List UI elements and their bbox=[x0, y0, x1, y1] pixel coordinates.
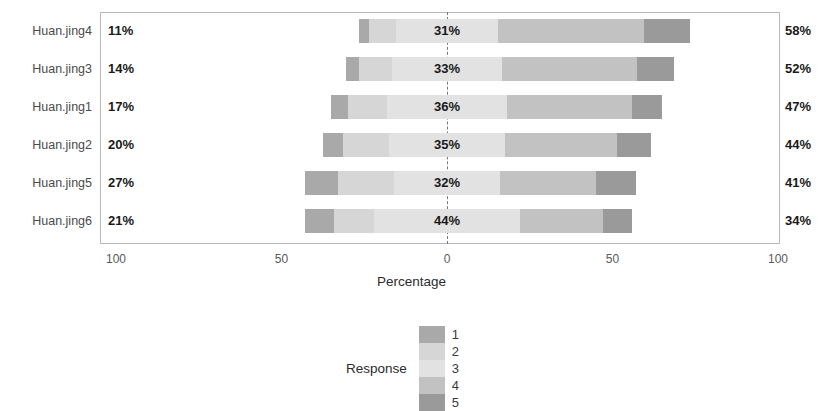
bar-segment-response-2 bbox=[369, 19, 395, 43]
bar-segment-response-4 bbox=[502, 57, 638, 81]
bar-segment-response-4 bbox=[505, 133, 618, 157]
table-row: Huan.jing117%47%36% bbox=[0, 88, 823, 126]
neutral-percentage-label: 35% bbox=[417, 133, 477, 157]
row-category-label: Huan.jing2 bbox=[0, 126, 92, 164]
legend-item-2[interactable]: 2 bbox=[419, 343, 473, 360]
bar-segment-response-1 bbox=[359, 19, 369, 43]
row-category-label: Huan.jing4 bbox=[0, 12, 92, 50]
table-row: Huan.jing527%41%32% bbox=[0, 164, 823, 202]
bar-segment-response-4 bbox=[507, 95, 633, 119]
row-category-label: Huan.jing6 bbox=[0, 202, 92, 240]
legend: Response 12345 bbox=[0, 326, 823, 411]
x-axis-title: Percentage bbox=[0, 274, 823, 289]
bar-segment-response-1 bbox=[305, 171, 338, 195]
table-row: Huan.jing314%52%33% bbox=[0, 50, 823, 88]
negative-total-label: 27% bbox=[108, 164, 134, 202]
legend-item-4[interactable]: 4 bbox=[419, 377, 473, 394]
positive-total-label: 58% bbox=[755, 12, 811, 50]
table-row: Huan.jing220%44%35% bbox=[0, 126, 823, 164]
legend-label: 3 bbox=[452, 361, 459, 376]
bar-segment-response-5 bbox=[644, 19, 690, 43]
bar-segment-response-1 bbox=[323, 133, 343, 157]
x-axis-tick: 50 bbox=[583, 252, 643, 266]
legend-label: 4 bbox=[452, 378, 459, 393]
bar-segment-response-1 bbox=[331, 95, 348, 119]
x-axis-tick: 100 bbox=[86, 252, 146, 266]
row-category-label: Huan.jing3 bbox=[0, 50, 92, 88]
legend-label: 5 bbox=[452, 395, 459, 410]
bar-segment-response-4 bbox=[498, 19, 644, 43]
bar-segment-response-2 bbox=[348, 95, 388, 119]
legend-swatch-icon bbox=[419, 360, 445, 377]
legend-swatch-icon bbox=[419, 377, 445, 394]
neutral-percentage-label: 32% bbox=[417, 171, 477, 195]
legend-item-1[interactable]: 1 bbox=[419, 326, 473, 343]
bar-segment-response-5 bbox=[596, 171, 636, 195]
bar-segment-response-5 bbox=[617, 133, 650, 157]
bar-segment-response-2 bbox=[343, 133, 389, 157]
positive-total-label: 41% bbox=[755, 164, 811, 202]
bar-segment-response-4 bbox=[520, 209, 603, 233]
positive-total-label: 34% bbox=[755, 202, 811, 240]
legend-item-5[interactable]: 5 bbox=[419, 394, 473, 411]
bar-segment-response-2 bbox=[338, 171, 394, 195]
legend-swatch-icon bbox=[419, 343, 445, 360]
x-axis-tick: 100 bbox=[748, 252, 808, 266]
bar-segment-response-5 bbox=[603, 209, 633, 233]
neutral-percentage-label: 31% bbox=[417, 19, 477, 43]
legend-swatch-icon bbox=[419, 394, 445, 411]
negative-total-label: 14% bbox=[108, 50, 134, 88]
x-axis-tick: 0 bbox=[417, 252, 477, 266]
legend-item-3[interactable]: 3 bbox=[419, 360, 473, 377]
bar-segment-response-5 bbox=[637, 57, 673, 81]
negative-total-label: 17% bbox=[108, 88, 134, 126]
legend-label: 2 bbox=[452, 344, 459, 359]
bar-segment-response-2 bbox=[359, 57, 392, 81]
bar-segment-response-4 bbox=[500, 171, 596, 195]
bar-segment-response-1 bbox=[346, 57, 359, 81]
x-axis-tick: 50 bbox=[252, 252, 312, 266]
negative-total-label: 20% bbox=[108, 126, 134, 164]
neutral-percentage-label: 33% bbox=[417, 57, 477, 81]
legend-items: 12345 bbox=[419, 326, 477, 411]
negative-total-label: 11% bbox=[108, 12, 133, 50]
positive-total-label: 44% bbox=[755, 126, 811, 164]
legend-title: Response bbox=[346, 361, 407, 376]
negative-total-label: 21% bbox=[108, 202, 134, 240]
bar-segment-response-5 bbox=[632, 95, 662, 119]
bar-segment-response-2 bbox=[334, 209, 374, 233]
neutral-percentage-label: 36% bbox=[417, 95, 477, 119]
table-row: Huan.jing621%34%44% bbox=[0, 202, 823, 240]
neutral-percentage-label: 44% bbox=[417, 209, 477, 233]
legend-label: 1 bbox=[452, 327, 459, 342]
bar-segment-response-1 bbox=[305, 209, 335, 233]
positive-total-label: 52% bbox=[755, 50, 811, 88]
table-row: Huan.jing411%58%31% bbox=[0, 12, 823, 50]
legend-swatch-icon bbox=[419, 326, 445, 343]
row-category-label: Huan.jing5 bbox=[0, 164, 92, 202]
row-category-label: Huan.jing1 bbox=[0, 88, 92, 126]
positive-total-label: 47% bbox=[755, 88, 811, 126]
